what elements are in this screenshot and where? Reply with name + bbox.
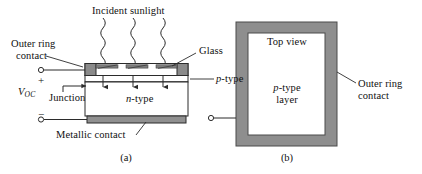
sunlight-ray-1 bbox=[101, 18, 106, 65]
metallic-contact-bar bbox=[87, 116, 186, 123]
glass-label: Glass bbox=[199, 45, 223, 57]
p-type-layer-rest: -type bbox=[279, 82, 301, 93]
outer-ring-contact-label-a-line2: contact bbox=[16, 50, 47, 62]
metallic-contact-label: Metallic contact bbox=[56, 129, 126, 141]
outer-ring-contact-label-b-line2: contact bbox=[358, 90, 389, 102]
n-type-label: n-type bbox=[126, 93, 153, 105]
ring-contact-right-block bbox=[177, 64, 188, 76]
surface-contact-fingers bbox=[96, 65, 177, 69]
n-type-label-rest: -type bbox=[131, 93, 153, 104]
p-type-layer-label-line2: layer bbox=[256, 94, 318, 106]
top-view-label: Top view bbox=[256, 36, 318, 48]
sunlight-ray-2 bbox=[131, 18, 136, 65]
metallic-contact-leader bbox=[136, 122, 146, 135]
junction-label: Junction bbox=[49, 92, 85, 104]
open-circuit-voltage-label: VOC bbox=[18, 86, 35, 101]
p-type-label: p-type bbox=[216, 73, 243, 85]
ring-contact-left-block bbox=[85, 64, 96, 76]
solar-cell-figure: Incident sunlight Outer ring contact Gla… bbox=[0, 0, 422, 174]
minus-polarity-sign: − bbox=[38, 109, 44, 119]
incident-sunlight-label: Incident sunlight bbox=[92, 5, 165, 17]
top-view-terminal-node bbox=[208, 115, 213, 120]
panel-a-caption: (a) bbox=[96, 152, 156, 163]
outer-ring-contact-leader-a bbox=[46, 56, 83, 67]
outer-ring-contact-label-b-line1: Outer ring bbox=[358, 78, 402, 90]
plus-polarity-sign: + bbox=[38, 75, 44, 85]
outer-ring-contact-label-a-line1: Outer ring bbox=[11, 38, 55, 50]
outer-ring-contact-leader-b bbox=[337, 72, 356, 83]
p-type-layer-label-line1: p-type bbox=[256, 82, 318, 94]
p-type-layer bbox=[85, 76, 188, 83]
positive-terminal-node bbox=[38, 67, 43, 72]
incident-sunlight-rays bbox=[101, 18, 166, 65]
voc-subscript: OC bbox=[25, 90, 36, 99]
sunlight-ray-3 bbox=[161, 18, 166, 65]
p-type-label-rest: -type bbox=[221, 73, 243, 84]
panel-b-caption: (b) bbox=[257, 152, 317, 163]
